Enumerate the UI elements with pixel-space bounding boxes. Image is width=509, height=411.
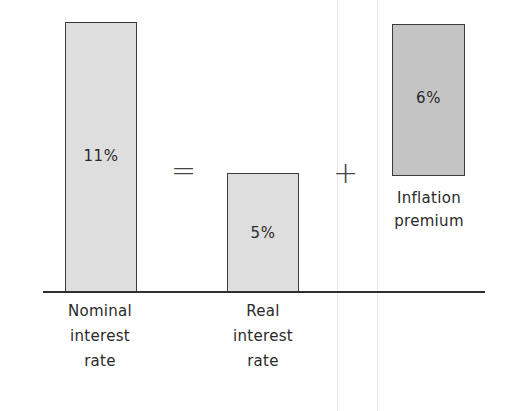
bar-value-nominal: 11% — [66, 147, 136, 165]
label-line: Real — [208, 299, 318, 324]
page-fold-line-left — [337, 0, 338, 411]
label-inflation-premium: Inflation premium — [374, 187, 484, 233]
label-line: premium — [374, 210, 484, 233]
bar-value-inflation: 6% — [393, 89, 464, 107]
label-line: interest — [45, 324, 155, 349]
label-line: rate — [45, 349, 155, 374]
equals-sign: = — [171, 156, 196, 186]
label-line: rate — [208, 349, 318, 374]
label-nominal-interest-rate: Nominal interest rate — [45, 299, 155, 374]
bar-real-interest-rate: 5% — [227, 173, 299, 292]
label-line: Nominal — [45, 299, 155, 324]
plus-sign: + — [333, 158, 358, 188]
label-line: interest — [208, 324, 318, 349]
label-real-interest-rate: Real interest rate — [208, 299, 318, 374]
label-line: Inflation — [374, 187, 484, 210]
bar-inflation-premium: 6% — [392, 24, 465, 176]
bar-value-real: 5% — [228, 224, 298, 242]
bar-nominal-interest-rate: 11% — [65, 22, 137, 292]
baseline-axis — [43, 291, 485, 293]
